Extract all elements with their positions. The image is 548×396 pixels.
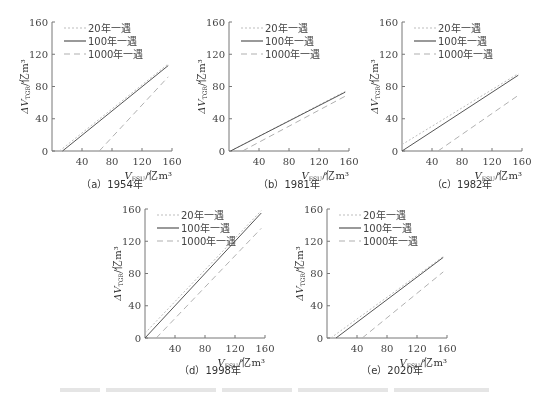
chart-svg: 040801201604080120160ΔVTGR/亿m³VFSU/亿m³20… xyxy=(0,0,548,396)
series-line-solid xyxy=(336,257,443,338)
panel-caption-a: （a）1954年 xyxy=(81,176,143,191)
series-line-dotted xyxy=(331,257,444,338)
y-tick-label: 120 xyxy=(304,236,323,247)
panel-caption-d: （d）1998年 xyxy=(179,362,241,377)
x-tick-label: 80 xyxy=(381,343,394,354)
panel-caption-e: （e）2020年 xyxy=(361,362,423,377)
y-tick-label: 0 xyxy=(317,333,323,344)
y-tick-label: 160 xyxy=(304,204,323,215)
x-tick-label: 40 xyxy=(351,343,364,354)
legend-label: 20年一遇 xyxy=(363,209,406,221)
y-axis-label: ΔVTGR/亿m³ xyxy=(293,246,306,302)
figure-caption xyxy=(60,388,490,394)
panel-caption-b: （b）1981年 xyxy=(258,176,320,191)
series-line-dashed xyxy=(362,272,443,338)
x-tick-label: 120 xyxy=(407,343,426,354)
legend-label: 100年一遇 xyxy=(363,222,412,234)
panel-caption-c: （c）1982年 xyxy=(432,176,493,191)
y-tick-label: 80 xyxy=(310,268,323,279)
y-tick-label: 40 xyxy=(310,300,323,311)
x-tick-label: 160 xyxy=(437,343,456,354)
legend-label: 1000年一遇 xyxy=(363,235,418,247)
legend: 20年一遇100年一遇1000年一遇 xyxy=(339,209,418,247)
